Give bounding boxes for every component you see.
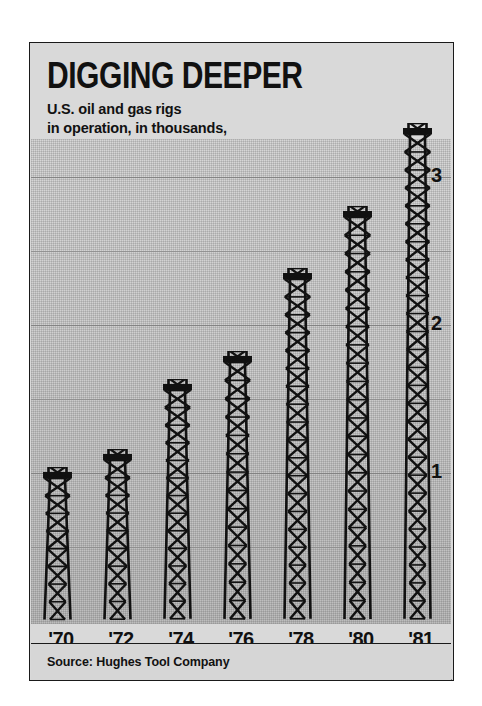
y-tick-label-1: 1	[431, 460, 442, 483]
bar-70	[41, 467, 74, 621]
bar-78	[281, 268, 314, 621]
bar-74	[161, 379, 194, 621]
gridline-3	[31, 177, 451, 178]
gridline-2	[31, 325, 451, 326]
y-tick-label-2: 2	[431, 312, 442, 335]
page-title: DIGGING DEEPER	[47, 57, 303, 94]
chart-panel: DIGGING DEEPER U.S. oil and gas rigs in …	[29, 42, 454, 681]
y-tick-label-3: 3	[431, 164, 442, 187]
chart-figure: DIGGING DEEPER U.S. oil and gas rigs in …	[0, 0, 482, 706]
source-label: Source: Hughes Tool Company	[47, 655, 230, 669]
bar-81	[401, 123, 434, 621]
bar-72	[101, 449, 134, 621]
bar-80	[341, 206, 374, 621]
plot-area: 123	[31, 139, 451, 624]
source-bar: Source: Hughes Tool Company	[31, 643, 451, 681]
bar-76	[221, 351, 254, 621]
gridline-2_5	[31, 251, 451, 252]
